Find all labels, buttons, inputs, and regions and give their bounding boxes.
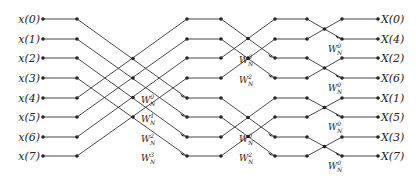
output-label: X(2) — [380, 52, 404, 65]
crossing-node — [323, 145, 327, 149]
input-label: x(5) — [18, 111, 40, 124]
twiddle-factor-label: W0N — [239, 132, 254, 146]
output-label: X(3) — [380, 131, 404, 144]
output-label: X(6) — [380, 72, 404, 85]
twiddle-factor-label: W0N — [239, 53, 254, 67]
input-label: x(7) — [18, 150, 40, 163]
crossing-node — [323, 27, 327, 31]
arrow-icon — [180, 113, 186, 117]
crossing-node — [323, 106, 327, 110]
crossing-node — [246, 37, 250, 41]
arrow-icon — [180, 152, 186, 156]
crossing-node — [131, 76, 135, 80]
twiddle-factor-label: W0N — [328, 42, 343, 56]
output-label: X(0) — [380, 13, 404, 26]
twiddle-factor-label: W2N — [141, 132, 156, 146]
input-label: x(4) — [18, 92, 40, 105]
output-label: X(4) — [380, 33, 404, 46]
output-label: X(7) — [380, 150, 404, 163]
crossing-node — [131, 96, 135, 100]
twiddle-factor-label: W2N — [239, 73, 254, 87]
input-label: x(0) — [18, 13, 40, 26]
crossing-node — [131, 57, 135, 61]
output-node — [376, 17, 380, 21]
twiddle-factor-label: W3N — [141, 151, 156, 165]
output-node — [376, 76, 380, 80]
input-label: x(1) — [18, 33, 40, 46]
output-node — [376, 56, 380, 60]
output-node — [376, 37, 380, 41]
output-node — [376, 154, 380, 158]
output-node — [376, 96, 380, 100]
twiddle-factor-label: W0N — [328, 159, 343, 173]
input-label: x(3) — [18, 72, 40, 85]
crossing-node — [323, 66, 327, 70]
twiddle-factor-label: W1N — [141, 112, 156, 126]
twiddle-factor-label: W0N — [328, 81, 343, 95]
output-node — [376, 135, 380, 139]
twiddle-factor-label: W0N — [328, 120, 343, 134]
input-label: x(2) — [18, 52, 40, 65]
input-label: x(6) — [18, 131, 40, 144]
crossing-node — [131, 115, 135, 119]
output-label: X(5) — [380, 111, 404, 124]
output-node — [376, 115, 380, 119]
fft-butterfly-diagram: x(0)x(1)x(2)x(3)x(4)x(5)x(6)x(7)W0NW1NW2… — [0, 0, 416, 178]
twiddle-factor-label: W0N — [141, 93, 156, 107]
crossing-node — [246, 116, 250, 120]
twiddle-factor-label: W2N — [239, 151, 254, 165]
output-label: X(1) — [380, 92, 404, 105]
